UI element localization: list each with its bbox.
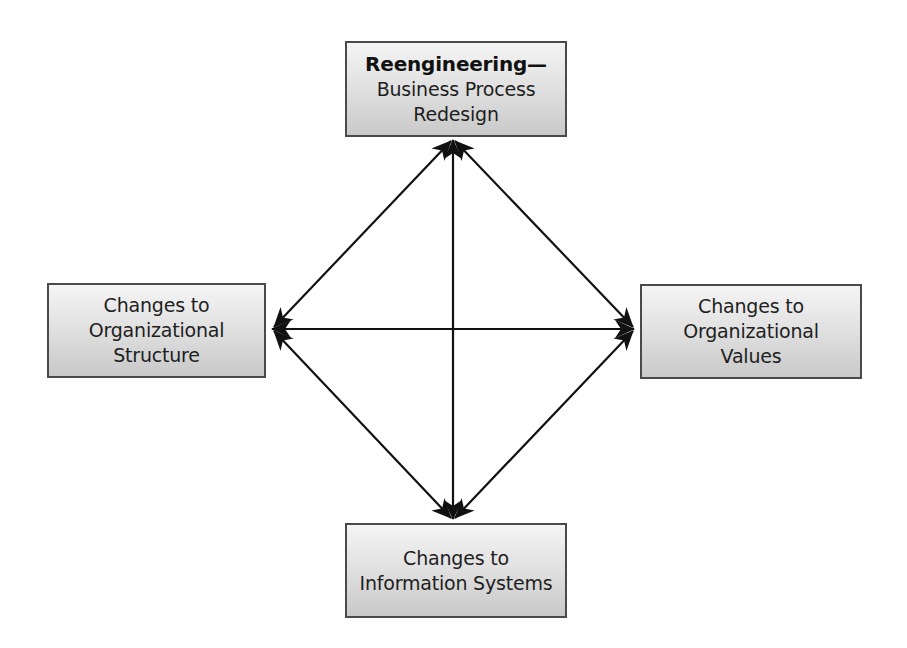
arrow-top-right xyxy=(455,141,633,327)
arrow-left-bottom xyxy=(274,331,451,518)
arrow-top-left xyxy=(274,141,451,327)
node-right-line-1: Changes to xyxy=(698,294,804,319)
node-bottom-line-1: Changes to xyxy=(403,546,509,571)
node-changes-organizational-values: Changes to Organizational Values xyxy=(640,284,862,379)
node-left-line-3: Structure xyxy=(113,343,200,368)
node-changes-organizational-structure: Changes to Organizational Structure xyxy=(47,283,266,378)
node-right-line-2: Organizational xyxy=(683,319,819,344)
node-left-line-1: Changes to xyxy=(104,293,210,318)
node-left-line-2: Organizational xyxy=(89,318,225,343)
node-top-heading: Reengineering— xyxy=(365,52,547,77)
node-bottom-line-2: Information Systems xyxy=(360,571,553,596)
node-top-line-2: Redesign xyxy=(413,102,498,127)
node-reengineering-business-process-redesign: Reengineering— Business Process Redesign xyxy=(345,41,567,137)
arrow-right-bottom xyxy=(455,331,633,518)
node-changes-information-systems: Changes to Information Systems xyxy=(345,523,567,618)
node-right-line-3: Values xyxy=(721,344,782,369)
node-top-line-1: Business Process xyxy=(377,77,536,102)
